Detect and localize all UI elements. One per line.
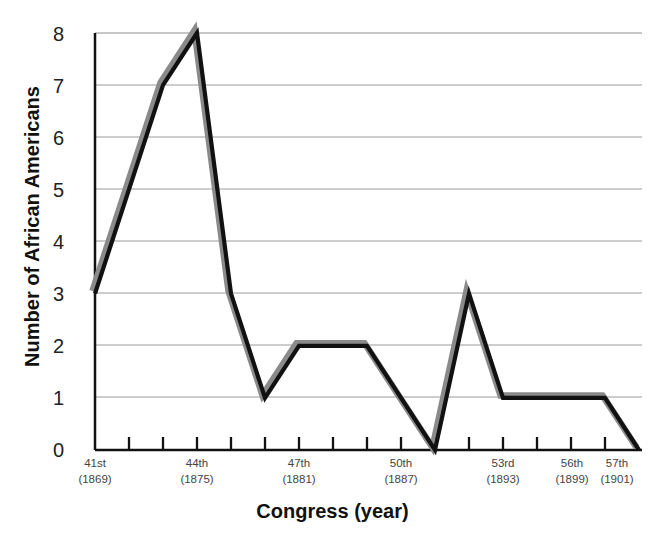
x-tick-57th: 57th (1901) [582,456,652,487]
x-tick-41st: 41st (1869) [60,456,130,487]
x-tick-41st-year: (1869) [60,472,130,488]
x-tick-53rd-congress: 53rd [468,456,538,472]
x-tick-47th: 47th (1881) [264,456,334,487]
x-tick-57th-congress: 57th [582,456,652,472]
gridlines [95,33,642,397]
series-shadow-line [93,31,637,448]
x-axis-title: Congress (year) [0,500,665,523]
x-tick-47th-year: (1881) [264,472,334,488]
x-tick-47th-congress: 47th [264,456,334,472]
chart-container: Number of African Americans 8 7 6 5 4 3 … [0,0,665,540]
x-tick-50th-congress: 50th [366,456,436,472]
x-tick-53rd: 53rd (1893) [468,456,538,487]
x-axis-ticks [129,437,605,450]
x-tick-44th-congress: 44th [162,456,232,472]
x-tick-53rd-year: (1893) [468,472,538,488]
x-tick-44th-year: (1875) [162,472,232,488]
x-tick-50th: 50th (1887) [366,456,436,487]
x-tick-41st-congress: 41st [60,456,130,472]
x-tick-57th-year: (1901) [582,472,652,488]
x-tick-50th-year: (1887) [366,472,436,488]
x-tick-44th: 44th (1875) [162,456,232,487]
